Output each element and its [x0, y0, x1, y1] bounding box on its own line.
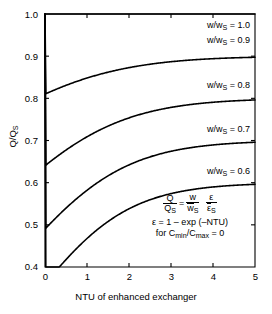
y-axis-title-main: Q/Q — [7, 130, 18, 147]
curve-label-sub: S — [222, 128, 227, 136]
curve-label-sub: S — [222, 24, 227, 32]
curve-label-text: w/w — [207, 35, 223, 45]
curve-label-text: w/w — [207, 20, 223, 30]
x-tick-label-2: 2 — [125, 272, 134, 282]
fraction-numerator: Q — [163, 194, 177, 203]
curve-label-0.9: w/wS = 0.9 — [150, 35, 250, 45]
curve-label-text: w/w — [207, 124, 223, 134]
y-tick-label-5: 0.9 — [6, 52, 38, 62]
fraction-denominator: εS — [206, 202, 217, 213]
fraction-denominator-sub: S — [194, 207, 199, 215]
equation-line-3-post: = 0 — [209, 228, 224, 238]
curve-label-0.8: w/wS = 0.8 — [150, 80, 250, 90]
curve-label-text: w/w — [207, 80, 223, 90]
y-tick-label-4: 0.8 — [6, 94, 38, 104]
y-tick-label-2: 0.6 — [6, 178, 38, 188]
curve-label-tail: = 1.0 — [227, 20, 250, 30]
equals-sign: = — [177, 198, 186, 209]
curve-label-tail: = 0.6 — [227, 166, 250, 176]
fraction-numerator: w — [186, 193, 199, 202]
curve-label-sub: S — [222, 39, 227, 47]
y-tick-label-1: 0.5 — [6, 220, 38, 230]
curve-label-tail: = 0.7 — [227, 124, 250, 134]
x-tick-label-0: 0 — [41, 272, 50, 282]
x-axis-title: NTU of enhanced exchanger — [0, 291, 272, 302]
equation-line-3-sub-max: max — [196, 232, 209, 240]
equation-line-3-mid: /C — [187, 228, 196, 238]
x-tick-label-4: 4 — [209, 272, 218, 282]
fraction-w-over-wS: w wS — [186, 193, 199, 214]
curve-label-sub: S — [222, 170, 227, 178]
fraction-numerator-text: w — [190, 192, 197, 202]
fraction-eps-over-epsS: ε εS — [206, 193, 217, 214]
plot-canvas — [0, 0, 272, 314]
fraction-denominator-sub: S — [211, 207, 216, 215]
fraction-denominator-text: w — [187, 203, 194, 213]
equation-line-3: for Cmin/Cmax = 0 — [128, 228, 252, 239]
y-axis-title: Q/QS — [7, 115, 18, 159]
curve-label-1.0: w/wS = 1.0 — [150, 20, 250, 30]
equation-annotation: Q QS = w wS ε εS ε = 1 – exp (–NTU) for … — [128, 193, 252, 239]
fraction-Q-over-QS: Q QS — [163, 194, 177, 214]
y-axis-title-sub: S — [12, 125, 20, 130]
curve-label-tail: = 0.8 — [227, 80, 250, 90]
chart-figure: 0.4 0.5 0.6 0.7 0.8 0.9 1.0 0 1 2 3 4 5 … — [0, 0, 272, 314]
curve-label-text: w/w — [207, 166, 223, 176]
fraction-numerator: ε — [206, 193, 217, 202]
equation-line-1: Q QS = w wS ε εS — [128, 193, 252, 214]
x-tick-label-1: 1 — [83, 272, 92, 282]
x-tick-label-3: 3 — [167, 272, 176, 282]
curve-label-sub: S — [222, 84, 227, 92]
curve-label-0.6: w/wS = 0.6 — [150, 166, 250, 176]
fraction-denominator-sub: S — [171, 207, 176, 215]
equation-line-2: ε = 1 – exp (–NTU) — [128, 217, 252, 228]
equation-line-3-sub-min: min — [175, 232, 186, 240]
equation-line-3-pre: for C — [156, 228, 176, 238]
y-tick-label-6: 1.0 — [6, 10, 38, 20]
fraction-denominator: QS — [163, 203, 177, 213]
x-tick-label-5: 5 — [251, 272, 260, 282]
fraction-denominator: wS — [186, 202, 199, 213]
curve-label-0.7: w/wS = 0.7 — [150, 124, 250, 134]
y-tick-label-0: 0.4 — [6, 262, 38, 272]
curve-label-tail: = 0.9 — [227, 35, 250, 45]
